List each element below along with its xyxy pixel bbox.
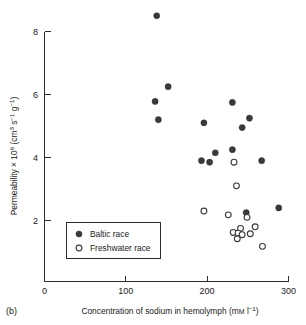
svg-text:Permeability × 106 (cm3 s−1 g−: Permeability × 106 (cm3 s−1 g−1) bbox=[8, 97, 19, 216]
data-point bbox=[155, 117, 161, 123]
data-point bbox=[165, 84, 171, 90]
series-freshwater-race bbox=[201, 159, 265, 249]
data-point bbox=[201, 208, 207, 214]
data-point bbox=[239, 124, 245, 130]
data-point bbox=[260, 243, 266, 249]
x-tick-label-300: 300 bbox=[281, 286, 296, 296]
scatter-plot-figure: 8 6 4 2 0 100 200 300 Permeability × 106… bbox=[0, 0, 306, 325]
data-point bbox=[154, 13, 160, 19]
series-baltic-race bbox=[152, 13, 282, 216]
data-point bbox=[225, 212, 231, 218]
data-point bbox=[239, 232, 245, 238]
y-tick-label-6: 6 bbox=[33, 90, 38, 100]
data-point bbox=[276, 205, 282, 211]
legend-label-freshwater-race: Freshwater race bbox=[90, 243, 151, 253]
x-axis-title-close: ) bbox=[256, 306, 259, 316]
legend-box bbox=[67, 223, 161, 259]
x-tick-label-100: 100 bbox=[118, 286, 133, 296]
data-point bbox=[246, 115, 252, 121]
y-tick-label-2: 2 bbox=[33, 216, 38, 226]
x-axis-title-prefix: Concentration of sodium in hemolymph (m bbox=[81, 306, 238, 316]
data-point bbox=[229, 99, 235, 105]
y-axis-title-close: ) bbox=[9, 97, 19, 100]
data-point bbox=[152, 98, 158, 104]
x-tick-label-200: 200 bbox=[200, 286, 215, 296]
data-point bbox=[207, 159, 213, 165]
legend-marker-freshwater-race bbox=[76, 245, 82, 251]
y-axis-title: Permeability × 106 (cm3 s−1 g−1) bbox=[8, 97, 19, 216]
data-point bbox=[247, 231, 253, 237]
x-tick-labels: 0 100 200 300 bbox=[42, 286, 296, 296]
y-axis-title-mid: (cm bbox=[9, 131, 19, 147]
y-tick-label-8: 8 bbox=[33, 27, 38, 37]
data-point bbox=[259, 158, 265, 164]
data-point bbox=[244, 214, 250, 220]
data-point bbox=[234, 236, 240, 242]
data-point bbox=[252, 224, 258, 230]
y-tick-labels: 8 6 4 2 bbox=[33, 27, 38, 226]
legend-label-baltic-race: Baltic race bbox=[90, 229, 129, 239]
panel-label: (b) bbox=[6, 306, 17, 316]
y-axis-title-prefix: Permeability × 10 bbox=[9, 150, 19, 215]
x-tick-label-0: 0 bbox=[42, 286, 47, 296]
legend-marker-baltic-race bbox=[76, 231, 82, 237]
chart-svg: 8 6 4 2 0 100 200 300 Permeability × 106… bbox=[0, 0, 306, 325]
data-point bbox=[198, 158, 204, 164]
data-point bbox=[229, 147, 235, 153]
data-point bbox=[201, 120, 207, 126]
data-point bbox=[231, 159, 237, 165]
data-point bbox=[212, 150, 218, 156]
y-tick-label-4: 4 bbox=[33, 153, 38, 163]
legend: Baltic race Freshwater race bbox=[67, 223, 161, 259]
data-point bbox=[234, 183, 240, 189]
x-axis-title: Concentration of sodium in hemolymph (mM… bbox=[81, 305, 258, 316]
